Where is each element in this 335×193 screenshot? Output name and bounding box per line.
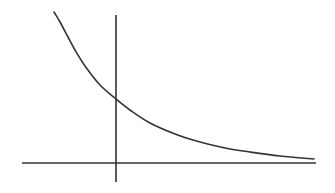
exponential-decay-chart bbox=[0, 0, 335, 193]
decay-curve bbox=[54, 12, 314, 159]
